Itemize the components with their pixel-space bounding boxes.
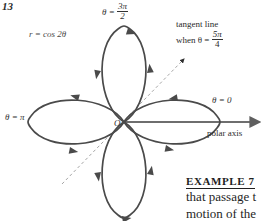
theta-zero-label: θ = 0 (212, 96, 232, 105)
body-text-block: EXAMPLE 7 that passage t motion of the (186, 171, 273, 221)
example-heading: EXAMPLE 7 (186, 175, 255, 189)
fraction-denominator: 2 (117, 12, 128, 21)
tangent-annotation-prefix: when θ = (176, 35, 212, 45)
tangent-annotation-line2: when θ = 5π4 (176, 30, 223, 49)
body-text-line-2: motion of the (186, 206, 273, 221)
tangent-annotation-line1: tangent line (176, 19, 218, 29)
fraction-numerator: 5π (212, 30, 223, 39)
origin-label: O (114, 119, 121, 128)
tangent-line-annotation: tangent line when θ = 5π4 (176, 20, 223, 49)
fraction-numerator: 3π (117, 2, 128, 11)
theta-pi-label: θ = π (5, 113, 25, 122)
fraction-5pi-4: 5π4 (212, 30, 223, 49)
body-text-line-1: that passage t (186, 189, 273, 206)
fraction-denominator: 4 (212, 40, 223, 49)
theta-top-prefix: θ = (102, 7, 117, 17)
curve-direction-arrows (69, 28, 178, 221)
theta-3pi-over-2-label: θ = 3π2 (102, 2, 128, 21)
equation-label: r = cos 2θ (29, 30, 66, 39)
polar-axis-label: polar axis (207, 129, 242, 138)
page-number: 13 (2, 1, 13, 13)
fraction-3pi-2: 3π2 (117, 2, 128, 21)
